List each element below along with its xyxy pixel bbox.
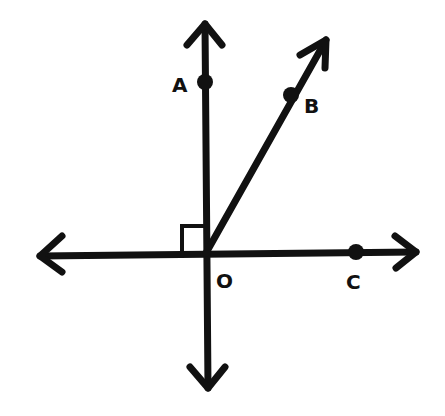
geometry-diagram: A B C O xyxy=(0,0,445,416)
label-b: B xyxy=(304,94,319,118)
ray-ob xyxy=(206,40,326,253)
right-angle-mark xyxy=(182,226,205,254)
point-b xyxy=(283,87,299,103)
point-a xyxy=(197,74,213,90)
label-c: C xyxy=(346,270,361,294)
point-c xyxy=(348,244,364,260)
label-o: O xyxy=(216,269,233,293)
label-a: A xyxy=(172,73,188,97)
